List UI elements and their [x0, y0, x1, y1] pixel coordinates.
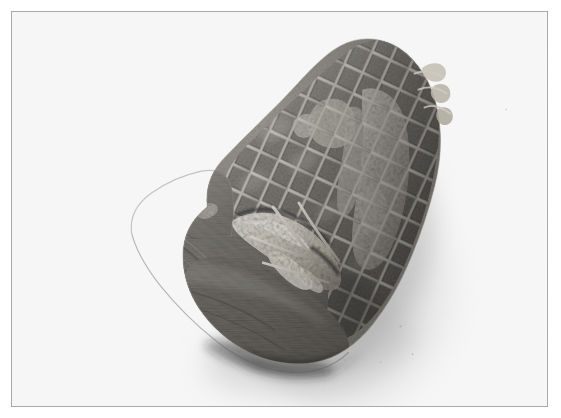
photo-page: Black and white photograph of a rolled j…: [0, 0, 561, 418]
photograph-image: Black and white photograph of a rolled j…: [12, 12, 547, 406]
photograph-frame: Black and white photograph of a rolled j…: [11, 11, 548, 407]
photo-film-grain: [12, 12, 547, 406]
